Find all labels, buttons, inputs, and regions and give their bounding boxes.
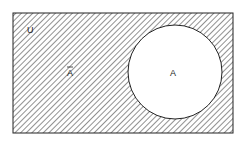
set-a-label: A [170,68,176,78]
universe-label: U [27,25,34,35]
venn-diagram: U A A [0,0,247,143]
complement-label: A [67,68,73,78]
